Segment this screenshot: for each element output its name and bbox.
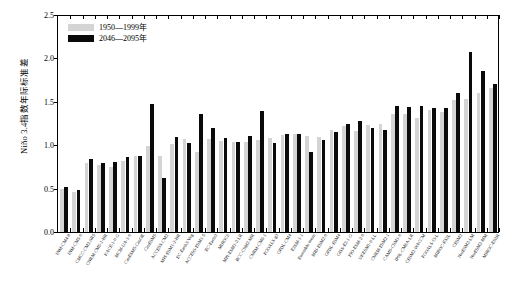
x-axis-tick-mark-top [70, 15, 71, 19]
x-axis-tick-mark-top [377, 15, 378, 19]
x-axis-tick-mark [132, 228, 133, 232]
x-axis-tick-mark [487, 228, 488, 232]
x-axis-tick-mark-top [352, 15, 353, 19]
x-axis-tick-mark [95, 228, 96, 232]
bar-historical [195, 152, 199, 232]
x-axis-tick-mark [450, 228, 451, 232]
bar-future [334, 132, 338, 232]
x-axis-tick-mark-top [413, 15, 414, 19]
x-axis-tick-mark [315, 228, 316, 232]
bar-historical [121, 161, 125, 232]
bar-future [469, 52, 473, 232]
x-axis-tick-mark-top [450, 15, 451, 19]
y-axis-tick-label: 1.5 [32, 97, 54, 106]
x-axis-tick-mark-top [426, 15, 427, 19]
bar-historical [244, 142, 248, 232]
x-axis-tick-mark-top [181, 15, 182, 19]
bar-historical [109, 167, 113, 232]
y-axis-tick-label: 0.5 [32, 184, 54, 193]
legend-swatch-historical [68, 24, 94, 31]
bar-historical [232, 142, 236, 232]
bar-future [322, 140, 326, 232]
x-axis-tick-mark [119, 228, 120, 232]
bar-future [187, 143, 191, 232]
chart-figure: Niño 3.4指数年际标准差 0.00.51.01.52.02.5 1950—… [0, 0, 510, 297]
bar-historical [281, 135, 285, 232]
x-axis-tick-mark-top [230, 15, 231, 19]
x-axis-tick-mark-top [303, 15, 304, 19]
x-axis-tick-mark-top [315, 15, 316, 19]
x-axis-tick-mark-top [168, 15, 169, 19]
bar-future [395, 106, 399, 232]
y-axis-title: Niño 3.4指数年际标准差 [17, 0, 29, 221]
bar-historical [170, 144, 174, 232]
x-axis-tick-mark-top [132, 15, 133, 19]
bar-historical [60, 189, 64, 232]
y-axis-tick-label: 2.0 [32, 54, 54, 63]
bar-future [138, 156, 142, 232]
x-axis-tick-mark [499, 228, 500, 232]
x-axis-tick-mark-top [499, 15, 500, 19]
bar-historical [72, 192, 76, 232]
y-axis-tick-label: 0.0 [32, 228, 54, 237]
bar-historical [354, 131, 358, 232]
bar-historical [158, 156, 162, 232]
bar-historical [489, 88, 493, 232]
x-axis-tick-mark [462, 228, 463, 232]
y-axis-tick-label: 1.0 [32, 141, 54, 150]
x-axis-tick-mark [217, 228, 218, 232]
bar-historical [440, 112, 444, 232]
bar-future [211, 128, 215, 232]
bar-future [150, 104, 154, 232]
bar-historical [391, 114, 395, 232]
bar-future [371, 128, 375, 232]
y-axis-tick-label: 2.5 [32, 11, 54, 20]
bar-future [101, 163, 105, 232]
bar-future [236, 142, 240, 232]
bar-future [64, 187, 68, 232]
x-axis-tick-mark [377, 228, 378, 232]
x-axis-tick-mark-top [156, 15, 157, 19]
bar-future [199, 114, 203, 232]
bar-future [432, 108, 436, 232]
x-axis-tick-mark-top [119, 15, 120, 19]
x-axis-labels: INM-CM4-8INM-CM5-0CMCC-CM2-SR5CNRM-CM6-1… [57, 233, 499, 297]
bar-historical [207, 139, 211, 232]
x-axis-tick-mark-top [328, 15, 329, 19]
bar-future [162, 178, 166, 232]
bar-future [248, 136, 252, 232]
x-axis-tick-mark-top [401, 15, 402, 19]
x-axis-tick-mark [193, 228, 194, 232]
bar-future [444, 108, 448, 232]
x-axis-tick-mark-top [242, 15, 243, 19]
x-axis-tick-mark [426, 228, 427, 232]
x-axis-tick-mark-top [364, 15, 365, 19]
x-axis-tick-mark [279, 228, 280, 232]
x-axis-tick-mark [156, 228, 157, 232]
bar-historical [293, 134, 297, 232]
x-axis-tick-mark-top [193, 15, 194, 19]
legend-label-historical: 1950—1999年 [99, 22, 147, 33]
bar-historical [268, 138, 272, 232]
x-axis-tick-mark-top [95, 15, 96, 19]
bar-historical [146, 146, 150, 232]
x-axis-tick-mark-top [144, 15, 145, 19]
x-axis-tick-mark [475, 228, 476, 232]
legend-label-future: 2046—2095年 [99, 33, 147, 44]
plot-area: 0.00.51.01.52.02.5 [57, 15, 499, 233]
bar-future [260, 111, 264, 232]
bar-historical [183, 139, 187, 232]
bar-future [113, 162, 117, 232]
x-axis-tick-mark-top [107, 15, 108, 19]
x-axis-tick-mark-top [279, 15, 280, 19]
bar-future [456, 93, 460, 232]
x-axis-tick-mark [181, 228, 182, 232]
x-axis-tick-mark-top [217, 15, 218, 19]
x-axis-tick-mark [401, 228, 402, 232]
bar-historical [452, 100, 456, 232]
bar-historical [477, 93, 481, 232]
plot-inner [58, 15, 499, 232]
bar-future [297, 134, 301, 232]
x-axis-tick-mark-top [83, 15, 84, 19]
bar-future [224, 138, 228, 232]
